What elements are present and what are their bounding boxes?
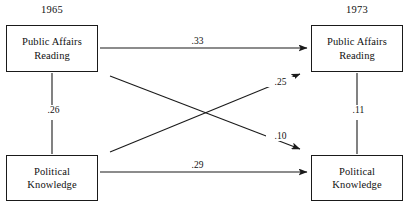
node-label-line1: Public Affairs [327, 35, 387, 48]
node-label-line2: Reading [34, 49, 70, 62]
node-public-affairs-reading-1973[interactable]: Public Affairs Reading [311, 25, 403, 72]
path-label-t2-correlation: .11 [344, 105, 373, 115]
path-label-knowledge-to-reading: .25 [266, 77, 295, 87]
cross-lagged-panel-diagram: 1965 1973 Public Affairs Reading Politic… [0, 0, 407, 208]
path-label-t1-correlation: .26 [39, 105, 68, 115]
node-label-line2: Knowledge [332, 178, 381, 191]
node-label-line1: Political [34, 165, 70, 178]
path-label-knowledge-stability: .29 [183, 160, 212, 170]
node-label-line1: Political [339, 165, 375, 178]
wave-label-1973: 1973 [311, 4, 403, 15]
wave-label-1965: 1965 [6, 4, 98, 15]
node-political-knowledge-1973[interactable]: Political Knowledge [311, 155, 403, 201]
path-label-reading-to-knowledge: .10 [266, 131, 295, 141]
node-public-affairs-reading-1965[interactable]: Public Affairs Reading [6, 25, 98, 72]
node-label-line2: Reading [339, 49, 375, 62]
path-label-reading-stability: .33 [183, 36, 212, 46]
node-political-knowledge-1965[interactable]: Political Knowledge [6, 155, 98, 201]
node-label-line2: Knowledge [27, 178, 76, 191]
node-label-line1: Public Affairs [22, 35, 82, 48]
